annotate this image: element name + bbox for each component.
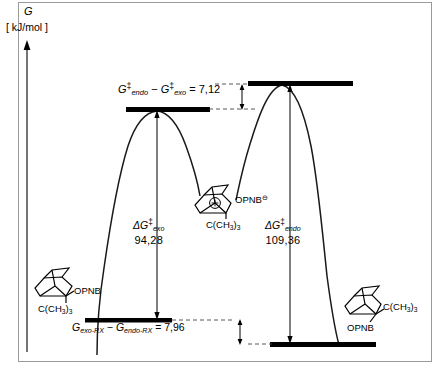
cation-opnb-charge: ⊖ bbox=[262, 194, 268, 201]
endo-transition-state-bar bbox=[248, 81, 353, 86]
ts-term1-sub: endo bbox=[131, 88, 148, 97]
endo-reactant-skeleton bbox=[345, 286, 384, 322]
gs-term1-sub: exo-RX bbox=[80, 327, 104, 335]
cation-tbutyl-sub2: 3 bbox=[237, 224, 241, 231]
exo-reactant-opnb-label: OPNB bbox=[74, 285, 101, 296]
gs-difference-guides bbox=[172, 320, 272, 344]
gs-minus: − bbox=[107, 321, 113, 333]
endo-tbutyl-sub2: 3 bbox=[414, 306, 418, 313]
exo-tbutyl-main: C(CH bbox=[38, 303, 62, 314]
ts-minus: − bbox=[151, 83, 157, 95]
dg-endo-sub: endo bbox=[285, 225, 301, 233]
gs-difference-bracket bbox=[238, 319, 243, 345]
endo-pathway-curve bbox=[236, 85, 339, 345]
gs-value: 7,96 bbox=[164, 321, 184, 333]
dg-exo-value: 94,28 bbox=[133, 235, 164, 247]
exo-activation-energy-label: ΔG‡exo 94,28 bbox=[133, 218, 164, 247]
exo-tbutyl-sub2: 3 bbox=[69, 308, 73, 315]
gs-equals: = bbox=[155, 321, 161, 333]
exo-reactant-tbutyl-label: C(CH3)3 bbox=[38, 303, 72, 315]
dg-endo-value: 109,36 bbox=[265, 235, 301, 247]
exo-reactant-skeleton bbox=[35, 268, 74, 303]
dg-endo-symbol: ΔG bbox=[265, 219, 280, 231]
gs-term1-base: G bbox=[72, 321, 80, 333]
ts-term2-sub: exo bbox=[174, 88, 186, 97]
exo-transition-state-bar bbox=[126, 107, 210, 112]
ts-term2-base: G bbox=[161, 83, 170, 95]
dg-exo-symbol: ΔG bbox=[133, 219, 148, 231]
y-axis bbox=[24, 40, 31, 352]
endo-reactant-opnb-label: OPNB bbox=[347, 322, 374, 333]
endo-tbutyl-main: C(CH bbox=[383, 301, 407, 312]
cation-skeleton bbox=[195, 185, 231, 219]
endo-activation-energy-label: ΔG‡endo 109,36 bbox=[265, 218, 301, 247]
cation-tbutyl-label: C(CH3)3 bbox=[206, 219, 240, 231]
transition-state-difference-label: G‡endo − G‡exo = 7,12 bbox=[118, 82, 220, 97]
y-axis-symbol: G bbox=[24, 6, 33, 18]
gs-term2-sub: endo-RX bbox=[124, 327, 152, 335]
cation-tbutyl-main: C(CH bbox=[206, 219, 230, 230]
endo-reactant-tbutyl-label: C(CH3)3 bbox=[383, 301, 417, 313]
dg-exo-sub: exo bbox=[153, 225, 165, 233]
cation-counterion-label: OPNB⊖ bbox=[235, 194, 268, 205]
endo-activation-arrow bbox=[287, 84, 292, 344]
gs-term2-base: G bbox=[116, 321, 124, 333]
energy-profile-diagram: G [ kJ/mol ] G‡endo − G‡exo = 7,12 Gexo-… bbox=[0, 0, 435, 369]
ts-term1-base: G bbox=[118, 83, 127, 95]
ts-value: 7,12 bbox=[199, 83, 220, 95]
ts-equals: = bbox=[189, 83, 195, 95]
y-axis-unit: [ kJ/mol ] bbox=[6, 22, 48, 33]
ts-difference-bracket bbox=[240, 84, 245, 110]
exo-activation-arrow bbox=[154, 110, 159, 320]
cation-opnb-text: OPNB bbox=[235, 194, 262, 205]
ground-state-difference-label: Gexo-RX − Gendo-RX = 7,96 bbox=[72, 322, 185, 335]
endo-ground-state-bar bbox=[270, 342, 376, 347]
